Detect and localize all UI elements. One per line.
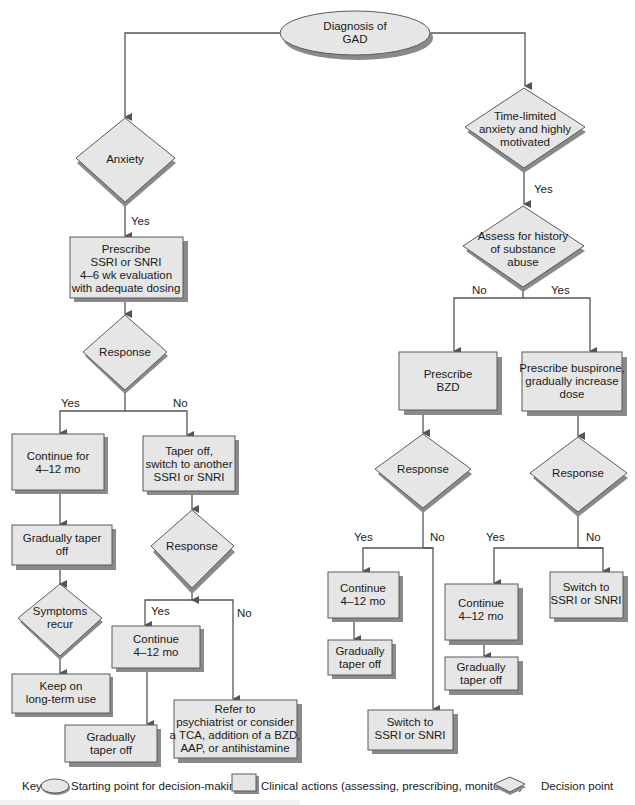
node-taper-switch-line-1: Taper off, <box>165 445 213 457</box>
node-response-l2: Response <box>151 510 235 594</box>
node-prescribe-buspirone-line-1: Prescribe buspirone, <box>519 362 624 374</box>
node-assess-history-line-2: of substance <box>490 243 555 255</box>
node-gradual-l1: Gradually taper off <box>12 525 116 570</box>
node-prescribe-buspirone: Prescribe buspirone, gradually increase … <box>519 352 627 416</box>
node-prescribe-buspirone-line-2: gradually increase <box>525 375 618 387</box>
node-response-l1-line-1: Response <box>99 346 151 358</box>
label-response-l1-no: No <box>173 397 188 409</box>
label-assess-no: No <box>472 284 487 296</box>
node-gradual-r2-line-2: taper off <box>460 674 503 686</box>
node-gradual-r1-line-1: Gradually <box>335 645 384 657</box>
label-anxiety-yes: Yes <box>131 215 150 227</box>
node-prescribe-bzd-line-1: Prescribe <box>424 368 473 380</box>
node-keep-on-line-2: long-term use <box>26 693 96 705</box>
node-prescribe-buspirone-line-3: dose <box>560 388 585 400</box>
node-refer-line-1: Refer to <box>215 703 256 715</box>
node-time-limited-line-1: Time-limited <box>494 110 556 122</box>
edge-response-l1-yes <box>60 411 125 433</box>
legend-label: Key <box>22 780 42 792</box>
node-response-r2: Response <box>530 437 628 517</box>
edge-start-time-limited <box>431 33 525 86</box>
node-prescribe-bzd: Prescribe BZD <box>399 352 502 415</box>
label-response-l2-no: No <box>237 607 252 619</box>
node-assess-history-line-3: abuse <box>507 256 538 268</box>
node-symptoms-recur: Symptoms recur <box>18 584 103 660</box>
label-response-r1-no: No <box>430 531 445 543</box>
node-response-r1: Response <box>375 434 472 513</box>
node-taper-switch-line-2: switch to another <box>146 458 233 470</box>
edge-assess-yes <box>523 298 590 351</box>
node-prescribe-ssri-line-2: SSRI or SNRI <box>91 256 162 268</box>
node-continue-r2-line-1: Continue <box>458 597 504 609</box>
edge-assess-no <box>454 298 523 351</box>
node-continue-l1: Continue for 4–12 mo <box>12 434 108 494</box>
node-symptoms-recur-line-2: recur <box>47 618 73 630</box>
node-assess-history: Assess for history of substance abuse <box>463 206 585 292</box>
node-continue-r2: Continue 4–12 mo <box>445 584 523 645</box>
node-time-limited: Time-limited anxiety and highly motivate… <box>465 88 586 173</box>
node-refer-line-4: AAP, or antihistamine <box>180 742 289 754</box>
node-switch-r2: Switch to SSRI or SNRI <box>550 572 628 622</box>
legend: Key Starting point for decision-making C… <box>22 774 614 795</box>
node-continue-r2-line-2: 4–12 mo <box>459 610 504 622</box>
node-response-r1-line-1: Response <box>397 463 449 475</box>
node-gradual-l2-line-1: Gradually <box>86 731 135 743</box>
node-taper-switch: Taper off, switch to another SSRI or SNR… <box>143 436 239 495</box>
node-prescribe-ssri-line-1: Prescribe <box>102 243 151 255</box>
edge-start-anxiety <box>125 33 281 117</box>
edge-response-r1-no <box>423 548 433 709</box>
legend-decision: Decision point <box>541 780 614 792</box>
node-prescribe-ssri-line-3: 4–6 wk evaluation <box>80 269 172 281</box>
node-gradual-l1-line-1: Gradually taper <box>23 532 102 544</box>
node-assess-history-line-1: Assess for history <box>478 230 569 242</box>
node-continue-l2-line-1: Continue <box>133 633 179 645</box>
label-time-limited-yes: Yes <box>534 183 553 195</box>
node-symptoms-recur-line-1: Symptoms <box>33 605 88 617</box>
node-time-limited-line-3: motivated <box>500 136 550 148</box>
node-switch-r2-line-1: Switch to <box>563 581 610 593</box>
legend-rect-icon <box>232 774 256 791</box>
label-assess-yes: Yes <box>551 284 570 296</box>
node-gradual-l2: Gradually taper off <box>65 725 161 767</box>
node-prescribe-bzd-line-2: BZD <box>437 381 460 393</box>
edge-response-r2-no <box>578 548 603 571</box>
node-continue-l2-line-2: 4–12 mo <box>134 646 179 658</box>
node-continue-r1-line-2: 4–12 mo <box>341 595 386 607</box>
legend-ellipse-icon <box>41 779 69 793</box>
node-continue-l2: Continue 4–12 mo <box>112 626 204 672</box>
node-gradual-r1-line-2: taper off <box>339 658 382 670</box>
node-keep-on-line-1: Keep on <box>40 680 83 692</box>
node-continue-l1-line-2: 4–12 mo <box>36 463 81 475</box>
node-prescribe-ssri: Prescribe SSRI or SNRI 4–6 wk evaluation… <box>70 237 188 302</box>
node-anxiety-line-1: Anxiety <box>106 153 144 165</box>
edge-response-l1-no <box>125 411 187 435</box>
label-response-l2-yes: Yes <box>151 605 170 617</box>
clipped-caption <box>0 800 300 805</box>
node-response-r2-line-1: Response <box>552 467 604 479</box>
node-anxiety: Anxiety <box>76 118 176 207</box>
node-start: Diagnosis of GAD <box>280 11 433 60</box>
node-switch-r2-line-2: SSRI or SNRI <box>551 594 622 606</box>
node-refer-line-2: psychiatrist or consider <box>176 716 294 728</box>
node-response-l2-line-1: Response <box>166 540 218 552</box>
node-switch-r1-line-2: SSRI or SNRI <box>375 729 446 741</box>
node-gradual-r1: Gradually taper off <box>328 640 396 679</box>
node-continue-r1: Continue 4–12 mo <box>328 572 403 622</box>
label-response-r2-yes: Yes <box>486 531 505 543</box>
node-gradual-r2-line-1: Gradually <box>456 661 505 673</box>
node-continue-r1-line-1: Continue <box>340 582 386 594</box>
label-response-r1-yes: Yes <box>354 531 373 543</box>
edge-response-r1-yes <box>363 548 433 571</box>
node-gradual-l1-line-2: off <box>56 545 69 557</box>
legend-start: Starting point for decision-making <box>71 780 242 792</box>
node-continue-l1-line-1: Continue for <box>27 450 90 462</box>
label-response-r2-no: No <box>586 531 601 543</box>
node-start-line-1: Diagnosis of <box>323 20 387 32</box>
node-switch-r1-line-1: Switch to <box>387 716 434 728</box>
gad-flowchart: Yes Yes No Yes No Yes No Yes Yes No Yes … <box>0 0 635 805</box>
node-time-limited-line-2: anxiety and highly <box>479 123 571 135</box>
legend-action: Clinical actions (assessing, prescribing… <box>261 780 523 792</box>
node-start-line-2: GAD <box>343 33 368 45</box>
node-gradual-l2-line-2: taper off <box>90 744 133 756</box>
node-gradual-r2: Gradually taper off <box>445 657 523 695</box>
